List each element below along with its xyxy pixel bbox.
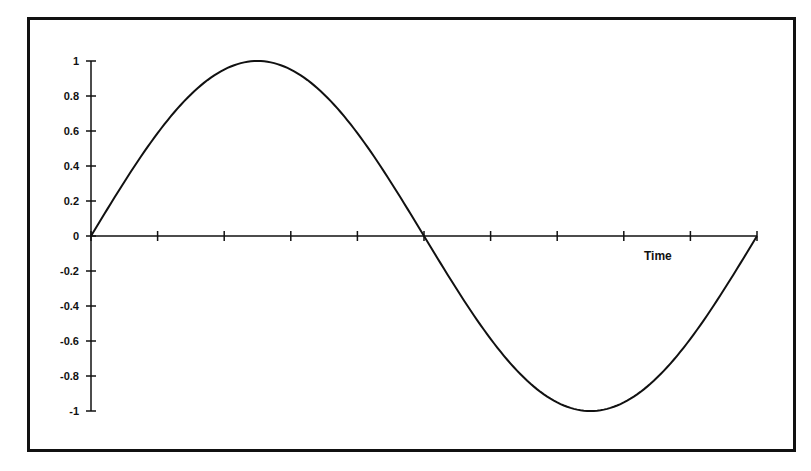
y-tick-label: 0.8 bbox=[64, 90, 79, 102]
y-tick-label: -0.4 bbox=[60, 300, 80, 312]
y-tick-label: 0 bbox=[73, 230, 79, 242]
sine-chart: 10.80.60.40.20-0.2-0.4-0.6-0.8-1 Time bbox=[0, 0, 811, 471]
y-tick-label: -0.8 bbox=[60, 370, 79, 382]
y-tick-label: -0.6 bbox=[60, 335, 79, 347]
x-axis-label: Time bbox=[644, 249, 672, 263]
y-tick-label: 0.4 bbox=[64, 160, 80, 172]
y-tick-label: -1 bbox=[69, 405, 79, 417]
y-tick-label: -0.2 bbox=[60, 265, 79, 277]
y-tick-label: 1 bbox=[73, 55, 79, 67]
y-tick-label: 0.6 bbox=[64, 125, 79, 137]
y-tick-label: 0.2 bbox=[64, 195, 79, 207]
